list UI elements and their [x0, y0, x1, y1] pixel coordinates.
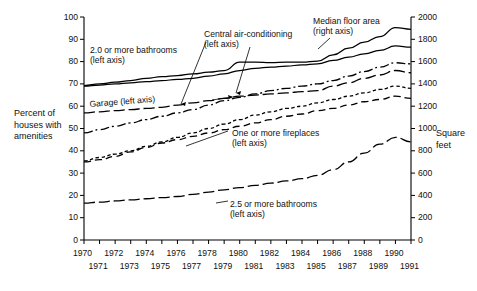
left-axis-tick-label: 100 [64, 12, 78, 22]
left-axis-tick-label: 60 [68, 101, 78, 111]
annotation-two-bathrooms-line1: 2.0 or more bathrooms [90, 45, 177, 55]
x-axis-tick-label-lower: 1989 [369, 261, 388, 271]
right-axis-title-line2: feet [436, 140, 465, 152]
right-axis-tick-label: 0 [418, 235, 423, 245]
right-axis-tick-label: 1400 [418, 78, 437, 88]
x-axis-tick-label-lower: 1985 [307, 261, 326, 271]
x-axis-tick-label-lower: 1979 [213, 261, 232, 271]
x-axis-tick-label-upper: 1970 [73, 248, 92, 258]
x-axis-tick-label-lower: 1971 [89, 261, 108, 271]
x-axis-tick-label-upper: 1972 [104, 248, 123, 258]
x-axis-tick-label-lower: 1973 [120, 261, 139, 271]
left-axis-tick-label: 70 [68, 78, 78, 88]
x-axis-tick-label-upper: 1984 [291, 248, 310, 258]
left-axis-title-line3: amenities [14, 131, 62, 143]
chart-container: 0102030405060708090100020040060080010001… [0, 0, 477, 291]
left-axis-title-line2: houses with [14, 120, 62, 132]
right-axis-tick-label: 1800 [418, 34, 437, 44]
right-axis-tick-label: 1600 [418, 56, 437, 66]
left-axis-tick-label: 10 [68, 212, 78, 222]
left-axis-title: Percent of houses with amenities [14, 108, 62, 143]
annotation-central-air: Central air-conditioning (left axis) [204, 29, 292, 50]
right-axis-tick-label: 1200 [418, 101, 437, 111]
x-axis-tick-label-lower: 1983 [275, 261, 294, 271]
annotation-median-floor-area-line1: Median floor area [313, 16, 380, 26]
left-axis-tick-label: 30 [68, 168, 78, 178]
x-axis-tick-label-lower: 1981 [244, 261, 263, 271]
x-axis-tick-label-lower: 1991 [400, 261, 419, 271]
x-axis-tick-label-upper: 1974 [135, 248, 154, 258]
x-axis-tick-label-lower: 1975 [151, 261, 170, 271]
series-line-3 [84, 71, 411, 113]
right-axis-tick-label: 800 [418, 145, 432, 155]
annotation-two-bathrooms-line2: (left axis) [90, 55, 177, 65]
x-axis-tick-label-upper: 1990 [384, 248, 403, 258]
left-axis-tick-label: 90 [68, 34, 78, 44]
x-axis-tick-label-lower: 1977 [182, 261, 201, 271]
left-axis-tick-label: 50 [68, 123, 78, 133]
x-axis-tick-label-upper: 1976 [166, 248, 185, 258]
left-axis-tick-label: 0 [73, 235, 78, 245]
annotation-fireplaces-line2: (left axis) [232, 138, 319, 148]
annotation-two-five-bathrooms-line1: 2.5 or more bathrooms [230, 199, 317, 209]
right-axis-title: Square feet [436, 128, 465, 151]
x-axis-tick-label-upper: 1980 [229, 248, 248, 258]
x-axis-tick-label-upper: 1988 [353, 248, 372, 258]
annotation-leader-two-five [216, 201, 228, 203]
annotation-two-five-bathrooms-line2: (left axis) [230, 209, 317, 219]
right-axis-tick-label: 1000 [418, 123, 437, 133]
x-axis-tick-label-upper: 1978 [198, 248, 217, 258]
right-axis-title-line1: Square [436, 128, 465, 140]
right-axis-tick-label: 400 [418, 190, 432, 200]
left-axis-tick-label: 40 [68, 145, 78, 155]
annotation-median-floor-area: Median floor area (right axis) [313, 16, 380, 37]
right-axis-tick-label: 2000 [418, 12, 437, 22]
annotation-two-bathrooms: 2.0 or more bathrooms (left axis) [90, 45, 177, 66]
left-axis-tick-label: 80 [68, 56, 78, 66]
annotation-fireplaces: One or more fireplaces (left axis) [232, 128, 319, 149]
annotation-two-five-bathrooms: 2.5 or more bathrooms (left axis) [230, 199, 317, 220]
x-axis-tick-label-lower: 1987 [338, 261, 357, 271]
annotation-leader-median [318, 38, 330, 49]
left-axis-title-line1: Percent of [14, 108, 62, 120]
annotation-median-floor-area-line2: (right axis) [313, 26, 380, 36]
x-axis-tick-label-upper: 1986 [322, 248, 341, 258]
right-axis-tick-label: 200 [418, 212, 432, 222]
right-axis-tick-label: 600 [418, 168, 432, 178]
annotation-fireplaces-line1: One or more fireplaces [232, 128, 319, 138]
left-axis-tick-label: 20 [68, 190, 78, 200]
annotation-central-air-line2: (left axis) [204, 39, 292, 49]
x-axis-tick-label-upper: 1982 [260, 248, 279, 258]
annotation-central-air-line1: Central air-conditioning [204, 29, 292, 39]
